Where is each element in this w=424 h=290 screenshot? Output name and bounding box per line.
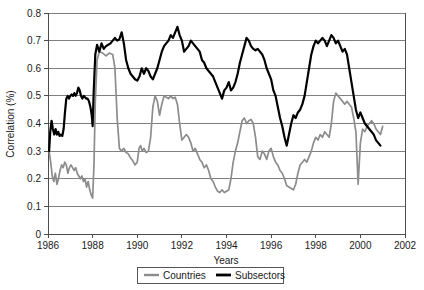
x-tick-label-1994: 1994 xyxy=(215,240,238,251)
x-tick-label-2000: 2000 xyxy=(349,240,372,251)
y-tick-label-0.2: 0.2 xyxy=(27,173,41,184)
y-tick-label-0.3: 0.3 xyxy=(27,146,41,157)
y-tick-label-0: 0 xyxy=(35,229,41,240)
x-tick-label-1998: 1998 xyxy=(305,240,328,251)
y-tick-label-0.7: 0.7 xyxy=(27,35,41,46)
y-tick-label-0.6: 0.6 xyxy=(27,63,41,74)
legend-label-subsectors: Subsectors xyxy=(235,270,285,281)
legend-label-countries: Countries xyxy=(163,270,206,281)
x-tick-label-1990: 1990 xyxy=(126,240,149,251)
x-tick-label-1988: 1988 xyxy=(82,240,105,251)
x-tick-label-1996: 1996 xyxy=(260,240,283,251)
y-tick-label-0.1: 0.1 xyxy=(27,201,41,212)
y-tick-label-0.4: 0.4 xyxy=(27,118,41,129)
x-axis-title: Years xyxy=(213,255,238,266)
x-tick-label-2002: 2002 xyxy=(394,240,417,251)
chart-legend: Countries Subsectors xyxy=(137,267,285,283)
y-tick-label-0.8: 0.8 xyxy=(27,8,41,19)
y-axis-title: Correlation (%) xyxy=(5,90,16,157)
y-tick-label-0.5: 0.5 xyxy=(27,90,41,101)
x-tick-label-1992: 1992 xyxy=(171,240,194,251)
correlation-line-chart: 00.10.20.30.40.50.60.70.8 19861988199019… xyxy=(0,0,424,290)
x-tick-label-1986: 1986 xyxy=(37,240,60,251)
chart-figure: 00.10.20.30.40.50.60.70.8 19861988199019… xyxy=(0,0,424,290)
